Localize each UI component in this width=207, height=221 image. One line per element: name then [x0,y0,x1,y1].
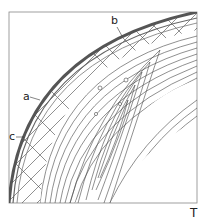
histology-diagram [0,0,207,221]
label-a: a [23,91,30,102]
label-b: b [111,15,118,26]
label-corner-t: T [190,207,197,219]
label-c: c [9,131,15,142]
